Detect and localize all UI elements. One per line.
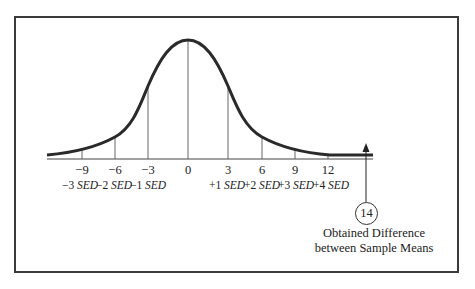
tick-label: 12 <box>313 163 343 178</box>
tick-label: −9 <box>67 163 97 178</box>
tick-label: 6 <box>247 163 277 178</box>
tick-label: 9 <box>280 163 310 178</box>
obtained-difference-value: 14 <box>355 202 378 225</box>
bell-curve <box>47 40 373 155</box>
sed-label: +4 SED <box>303 179 359 191</box>
arrow-head-icon <box>363 143 370 152</box>
obtained-difference-caption: Obtained Difference between Sample Means <box>300 226 448 256</box>
tick-label: 0 <box>173 163 203 178</box>
caption-line-2: between Sample Means <box>300 241 448 256</box>
tick-label: −6 <box>100 163 130 178</box>
tick-label: 3 <box>213 163 243 178</box>
sed-label: −1 SED <box>120 179 176 191</box>
tick-label: −3 <box>133 163 163 178</box>
caption-line-1: Obtained Difference <box>300 226 448 241</box>
sed-gridlines <box>82 40 328 159</box>
